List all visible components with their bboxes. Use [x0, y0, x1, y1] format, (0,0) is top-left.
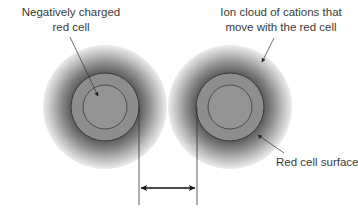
negative-cell-label: Negatively charged red cell [6, 5, 136, 35]
right-cell-inner [208, 85, 252, 129]
ion-cloud-label: Ion cloud of cations that move with the … [214, 5, 348, 35]
right-red-cell [168, 45, 292, 169]
red-cell-surface-label: Red cell surface [276, 155, 358, 170]
left-red-cell [43, 45, 167, 169]
left-cell-inner [83, 85, 127, 129]
